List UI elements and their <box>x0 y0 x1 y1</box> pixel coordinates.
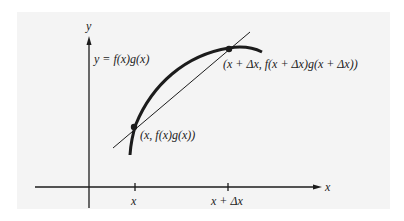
point-q-icon <box>226 46 232 52</box>
diagram-panel <box>17 12 390 209</box>
point-p-label: (x, f(x)g(x)) <box>140 128 195 142</box>
point-p-icon <box>131 124 137 130</box>
tick-label-x-plus-dx: x + Δx <box>210 194 243 208</box>
curve-label: y = f(x)g(x) <box>93 52 149 66</box>
tick-label-x: x <box>130 194 137 208</box>
x-axis-label: x <box>324 180 331 194</box>
product-rule-secant-diagram: y x x x + Δx y = f(x)g(x) (x, f(x)g(x)) … <box>0 0 404 221</box>
point-q-label: (x + Δx, f(x + Δx)g(x + Δx)) <box>223 57 358 71</box>
y-axis-label: y <box>85 19 92 33</box>
